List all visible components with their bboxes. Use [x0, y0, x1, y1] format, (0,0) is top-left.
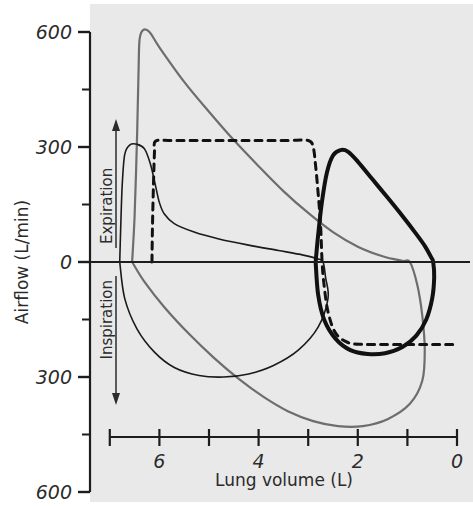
x-tick-label-2: 2 [352, 450, 364, 472]
inspiration-label: Inspiration [98, 280, 116, 360]
y-tick-label--300: 300 [36, 366, 72, 388]
flow-volume-loop-figure: 64206003000300600 Expiration Inspiration… [0, 0, 473, 506]
y-axis-title: Airflow (L/min) [12, 200, 32, 324]
x-axis-title: Lung volume (L) [215, 470, 353, 490]
chart-canvas: 64206003000300600 Expiration Inspiration… [0, 0, 473, 506]
y-tick-label-600: 600 [36, 21, 72, 43]
y-tick-label--600: 600 [36, 481, 72, 503]
y-tick-label-0: 0 [60, 251, 72, 273]
x-tick-label-0: 0 [451, 450, 463, 472]
x-tick-label-6: 6 [153, 450, 165, 472]
x-tick-label-4: 4 [253, 450, 265, 472]
expiration-label: Expiration [98, 168, 116, 244]
y-tick-label-300: 300 [36, 136, 72, 158]
plot-background [90, 4, 473, 502]
